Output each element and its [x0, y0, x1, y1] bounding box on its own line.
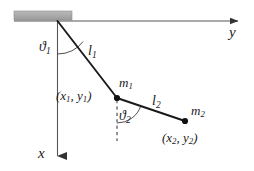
mass-m2-symbol: m: [191, 103, 200, 118]
x-axis-label-text: x: [38, 145, 45, 161]
mass-m2-subscript: 2: [200, 109, 204, 119]
bob-m2-point: [182, 118, 188, 124]
theta2-subscript: 2: [126, 115, 131, 125]
mass-m1-label: m1: [119, 76, 133, 91]
mass-m1-subscript: 1: [128, 81, 132, 91]
y-axis-label-text: y: [229, 24, 236, 40]
coordinates-m2-label: (x2, y2): [162, 131, 198, 146]
coord2-close: ): [193, 130, 197, 145]
length-l1-label: l1: [88, 44, 97, 60]
coord1-mid: , y: [71, 88, 83, 103]
coord1-close: ): [87, 88, 91, 103]
theta2-label: ϑ2: [119, 109, 131, 125]
theta1-symbol: ϑ: [39, 39, 46, 54]
ceiling-support-block: [14, 11, 72, 20]
x-axis-label: x: [38, 146, 45, 161]
mass-m1-symbol: m: [119, 75, 128, 90]
length-l2-label: l2: [152, 94, 161, 110]
theta1-label: ϑ1: [39, 40, 51, 56]
coord1-open: (x: [56, 88, 66, 103]
mass-m2-label: m2: [191, 104, 205, 119]
coord2-open: (x: [162, 130, 172, 145]
theta2-symbol: ϑ: [119, 108, 126, 123]
length-l2-subscript: 2: [156, 100, 161, 110]
double-pendulum-figure: y x ϑ1 ϑ2 l1 l2 m1 m2 (x1, y1) (x2, y2): [0, 0, 254, 171]
theta1-subscript: 1: [46, 46, 51, 56]
y-axis-label: y: [229, 25, 236, 40]
bob-m1-point: [114, 95, 120, 101]
coordinates-m1-label: (x1, y1): [56, 89, 92, 104]
length-l1-subscript: 1: [92, 50, 97, 60]
coord2-mid: , y: [177, 130, 189, 145]
